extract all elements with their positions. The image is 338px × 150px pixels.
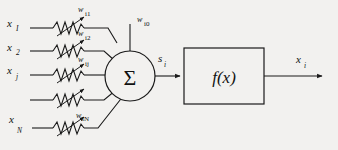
- output-label-base: x: [295, 53, 301, 65]
- weight-label-3-base: w: [78, 55, 84, 64]
- input-label-3-sub: j: [15, 72, 18, 81]
- activation-function-box: f(x): [184, 48, 264, 104]
- weight-label-3-sub: ij: [85, 60, 89, 68]
- weight-label-2-sub: i2: [85, 34, 91, 42]
- input-label-2-sub: 2: [16, 48, 20, 57]
- sum-to-activation-link: s i: [155, 52, 180, 76]
- diagram-canvas: x I w i1 x 2 w i2 x j w ij: [0, 0, 338, 150]
- weight-label-1-base: w: [78, 5, 84, 14]
- bias-label-sub: i0: [144, 20, 150, 28]
- weight-label-5-sub: iN: [82, 115, 89, 123]
- net-input-label-base: s: [158, 52, 162, 64]
- bias-label-base: w: [137, 15, 143, 24]
- output-label-sub: i: [304, 61, 306, 70]
- sigma-symbol: Σ: [124, 65, 137, 90]
- input-label-3-base: x: [6, 64, 12, 76]
- weight-label-2-base: w: [78, 29, 84, 38]
- input-label-1-sub: I: [15, 24, 19, 33]
- input-label-5-base: x: [8, 113, 14, 125]
- input-branch-4: [30, 89, 116, 108]
- input-label-1-base: x: [6, 17, 12, 29]
- bias-input: w i0: [130, 15, 150, 52]
- activation-function-label: f(x): [212, 68, 236, 87]
- input-branch-3: x j w ij: [6, 55, 112, 83]
- neuron-diagram: x I w i1 x 2 w i2 x j w ij: [0, 0, 338, 150]
- input-label-2-base: x: [6, 41, 12, 53]
- input-branch-1: x I w i1: [6, 5, 117, 43]
- weight-label-1-sub: i1: [85, 10, 91, 18]
- input-label-5-sub: N: [16, 126, 23, 135]
- net-input-label-sub: i: [164, 60, 166, 69]
- output-link: x i: [264, 53, 322, 76]
- summation-node: Σ: [105, 51, 155, 101]
